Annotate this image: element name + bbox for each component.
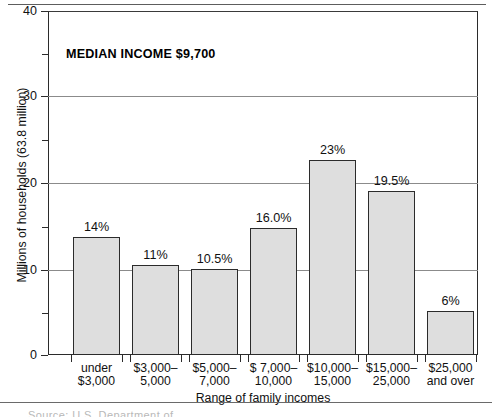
xtick-13: [476, 355, 477, 362]
xtick-12: [425, 355, 426, 362]
xcat-0: under $3,000: [66, 362, 127, 389]
bar-0: [73, 237, 120, 355]
xtick-2: [130, 355, 131, 362]
scan-rule-bottom: [0, 402, 492, 403]
scan-bottom-fragment: Source: U.S. Department of ...: [28, 410, 198, 417]
xcat-5-line2: 25,000: [361, 375, 422, 388]
bar-label-3: 16.0%: [245, 212, 302, 225]
xcat-3: $ 7,000– 10,000: [243, 362, 304, 389]
xcat-0-line1: under: [66, 362, 127, 375]
xcat-4-line1: $10,000–: [302, 362, 363, 375]
bar-3: [250, 228, 297, 355]
bar-1: [132, 265, 179, 355]
xcat-1-line1: $3,000–: [125, 362, 186, 375]
ytick-30: [41, 96, 48, 97]
ytick-40: [41, 11, 48, 12]
xtick-6: [248, 355, 249, 362]
bar-label-2: 10.5%: [186, 253, 243, 266]
xtick-11: [417, 355, 418, 362]
xtick-7: [299, 355, 300, 362]
xtick-0: [71, 355, 72, 362]
ytick-minor-25: [42, 140, 48, 141]
ytick-20: [41, 183, 48, 184]
xcat-1-line2: 5,000: [125, 375, 186, 388]
xcat-3-line1: $ 7,000–: [243, 362, 304, 375]
xcat-0-line2: $3,000: [66, 375, 127, 388]
xtick-1: [122, 355, 123, 362]
bar-label-5: 19.5%: [363, 175, 420, 188]
xcat-1: $3,000– 5,000: [125, 362, 186, 389]
xcat-3-line2: 10,000: [243, 375, 304, 388]
bar-label-1: 11%: [132, 249, 179, 262]
bar-label-6: 6%: [427, 295, 474, 308]
xcat-4-line2: 15,000: [302, 375, 363, 388]
ytick-0: [41, 355, 48, 356]
xtick-4: [189, 355, 190, 362]
gridline-30: [48, 96, 478, 97]
ytick-10: [41, 270, 48, 271]
ytick-minor-5: [42, 313, 48, 314]
xtick-3: [181, 355, 182, 362]
bar-2: [191, 269, 238, 355]
bar-label-0: 14%: [73, 221, 120, 234]
ytick-minor-35: [42, 54, 48, 55]
bar-label-4: 23%: [309, 144, 356, 157]
bar-4: [309, 160, 356, 355]
xcat-5: $15,000– 25,000: [361, 362, 422, 389]
median-income-annotation: MEDIAN INCOME $9,700: [66, 47, 216, 61]
xcat-4: $10,000– 15,000: [302, 362, 363, 389]
ytick-label-40: 40: [3, 5, 37, 18]
xcat-6: $25,000 and over: [420, 362, 481, 389]
xcat-2: $5,000– 7,000: [184, 362, 245, 389]
y-axis-title: Millions of households (63.8 million): [15, 35, 29, 335]
xcat-5-line1: $15,000–: [361, 362, 422, 375]
bar-5: [368, 191, 415, 355]
xcat-6-line1: $25,000: [420, 362, 481, 375]
ytick-label-0: 0: [3, 349, 37, 362]
bar-chart-figure: 0 10 20 30 40 Millions of households (63…: [0, 0, 492, 419]
xtick-9: [358, 355, 359, 362]
xtick-5: [240, 355, 241, 362]
xcat-6-line2: and over: [420, 375, 481, 388]
xcat-2-line2: 7,000: [184, 375, 245, 388]
scan-rule-top: [8, 4, 486, 5]
xcat-2-line1: $5,000–: [184, 362, 245, 375]
ytick-minor-15: [42, 227, 48, 228]
bar-6: [427, 311, 474, 355]
